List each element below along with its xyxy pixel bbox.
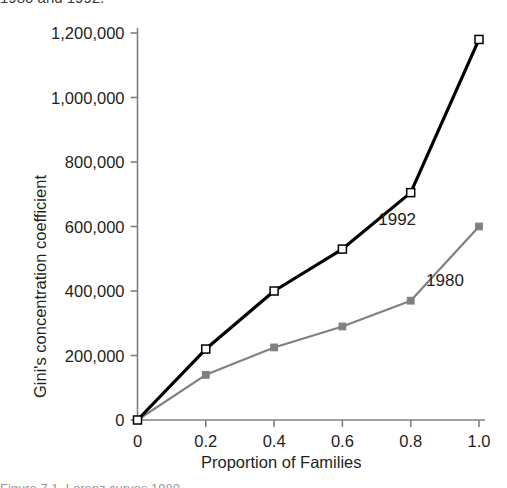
data-point-marker (407, 189, 415, 197)
y-axis-tick-label: 200,000 (65, 346, 125, 365)
data-point-marker (271, 344, 278, 351)
data-point-marker (270, 287, 278, 295)
axes (131, 28, 486, 427)
x-axis-tick-label: 0 (133, 432, 142, 451)
x-axis-tick-label: 0.6 (331, 432, 354, 451)
x-axis-tick-label: 0.4 (263, 432, 286, 451)
data-point-marker (476, 223, 483, 230)
series-label-1992: 1992 (378, 210, 416, 230)
data-series (134, 35, 484, 424)
y-axis-tick-label: 400,000 (65, 282, 125, 301)
data-point-marker (407, 297, 414, 304)
y-axis-tick-label: 1,200,000 (51, 24, 124, 43)
caption-fragment-bottom: Figure 7.1. Lorenz curves 1980 (0, 479, 507, 488)
data-point-marker (202, 371, 209, 378)
x-axis-tick-label: 1.0 (468, 432, 491, 451)
x-axis-title: Proportion of Families (201, 453, 361, 472)
y-axis-tick-label: 600,000 (65, 217, 125, 236)
data-point-marker (475, 35, 483, 43)
data-point-marker (339, 323, 346, 330)
data-point-marker (202, 345, 210, 353)
data-point-marker (338, 245, 346, 253)
y-axis-title: Gini's concentration coefficient (31, 175, 50, 398)
x-axis-tick-label: 0.2 (194, 432, 217, 451)
y-axis-tick-label: 800,000 (65, 153, 125, 172)
data-point-marker (134, 416, 142, 424)
series-line-1992 (138, 39, 480, 420)
caption-bottom-text: Figure 7.1. Lorenz curves 1980 (0, 481, 180, 488)
y-axis-tick-label: 0 (115, 411, 124, 430)
x-axis-tick-label: 0.8 (399, 432, 422, 451)
series-line-1980 (138, 227, 480, 421)
series-label-1980: 1980 (426, 271, 464, 291)
y-axis-tick-label: 1,000,000 (51, 88, 124, 107)
